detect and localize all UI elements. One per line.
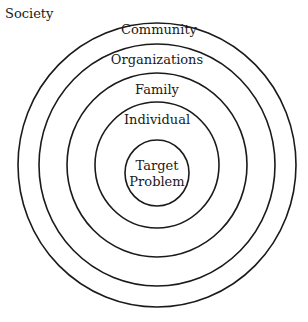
community-label: Community: [121, 22, 197, 37]
target-problem-line2: Problem: [129, 174, 184, 190]
family-label: Family: [135, 82, 179, 97]
target-problem-line1: Target: [129, 158, 184, 174]
individual-label: Individual: [124, 112, 190, 127]
organizations-label: Organizations: [111, 52, 203, 67]
society-label: Society: [5, 6, 53, 21]
target-problem-label: Target Problem: [129, 158, 184, 190]
